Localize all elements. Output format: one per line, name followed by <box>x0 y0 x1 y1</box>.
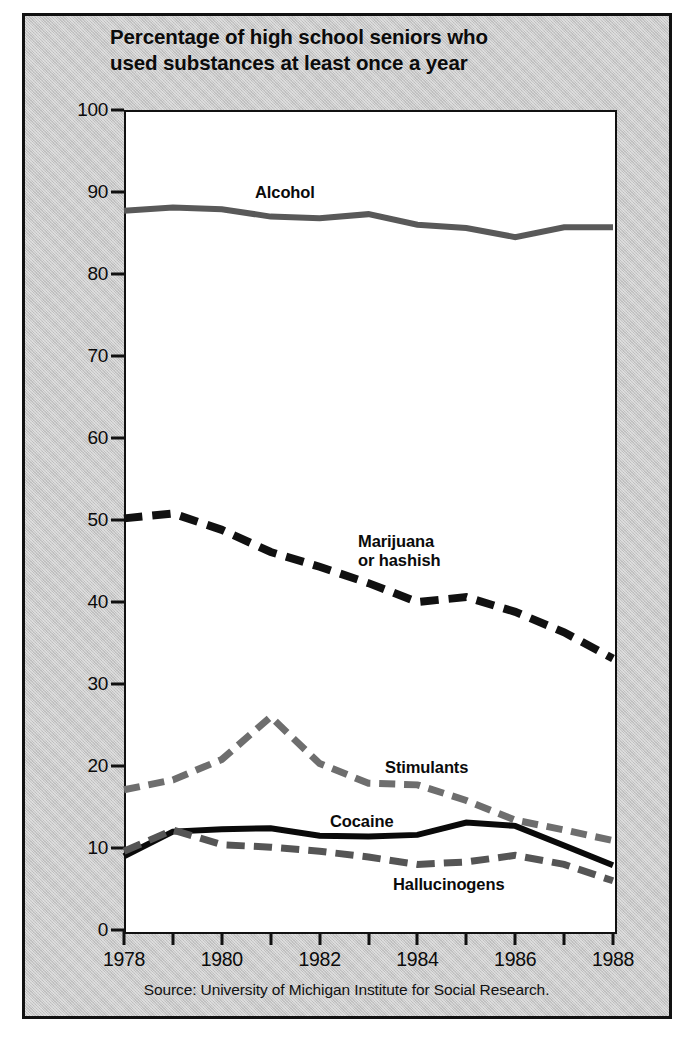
y-tick-mark-50 <box>111 519 124 522</box>
series-label-stimulants: Stimulants <box>385 758 468 777</box>
x-tick-label-1986: 1986 <box>494 948 536 971</box>
y-tick-label-50: 50 <box>46 509 108 531</box>
y-tick-label-30: 30 <box>46 673 108 695</box>
y-tick-label-10: 10 <box>46 837 108 859</box>
y-tick-mark-90 <box>111 191 124 194</box>
page-title: Percentage of high school seniors who us… <box>110 24 610 75</box>
series-label-cocaine: Cocaine <box>330 812 394 831</box>
y-tick-label-60: 60 <box>46 427 108 449</box>
x-tick-label-1982: 1982 <box>299 948 341 971</box>
y-tick-mark-60 <box>111 437 124 440</box>
series-label-marijuana: Marijuana or hashish <box>358 532 440 570</box>
series-line-alcohol <box>124 208 613 238</box>
y-tick-label-90: 90 <box>46 181 108 203</box>
y-tick-label-80: 80 <box>46 263 108 285</box>
y-tick-mark-40 <box>111 601 124 604</box>
series-label-alcohol: Alcohol <box>255 183 315 202</box>
x-tick-label-1988: 1988 <box>592 948 634 971</box>
y-tick-mark-80 <box>111 273 124 276</box>
x-tick-label-1984: 1984 <box>396 948 438 971</box>
y-tick-mark-30 <box>111 683 124 686</box>
y-tick-mark-70 <box>111 355 124 358</box>
y-tick-label-20: 20 <box>46 755 108 777</box>
y-tick-label-100: 100 <box>46 99 108 121</box>
chart-lines <box>124 110 613 930</box>
figure-root: Percentage of high school seniors who us… <box>0 0 693 1043</box>
y-tick-label-0: 0 <box>46 919 108 941</box>
x-tick-label-1978: 1978 <box>103 948 145 971</box>
series-label-hallucinogens: Hallucinogens <box>393 875 504 894</box>
x-tick-label-1980: 1980 <box>201 948 243 971</box>
y-tick-label-70: 70 <box>46 345 108 367</box>
y-tick-mark-20 <box>111 765 124 768</box>
y-tick-mark-100 <box>111 109 124 112</box>
y-tick-mark-10 <box>111 847 124 850</box>
y-tick-label-40: 40 <box>46 591 108 613</box>
source-note: Source: University of Michigan Institute… <box>0 981 693 999</box>
